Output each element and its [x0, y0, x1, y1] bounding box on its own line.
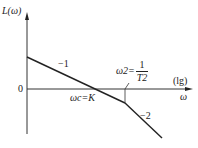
y-axis-label: L(ω): [2, 6, 21, 16]
crossover-label: ωc=K: [70, 93, 95, 103]
origin-label: 0: [18, 84, 23, 94]
x-axis-label: ω: [180, 92, 187, 102]
break-fraction: 1 T2: [136, 60, 148, 83]
y-axis-arrow-icon: [25, 12, 29, 20]
x-scale-label: (lg): [173, 76, 187, 86]
bode-diagram: L(ω) 0 −1 ωc=K ω2= 1 T2 (lg) ω −2: [0, 0, 198, 148]
slope-1-label: −1: [58, 59, 69, 69]
slope-2-label: −2: [140, 111, 151, 121]
bode-plot-svg: [0, 0, 198, 148]
break-label-prefix: ω2=: [116, 66, 135, 76]
break-fraction-denominator: T2: [137, 73, 148, 83]
break-fraction-numerator: 1: [140, 60, 145, 70]
break-label-leader: [125, 83, 129, 89]
